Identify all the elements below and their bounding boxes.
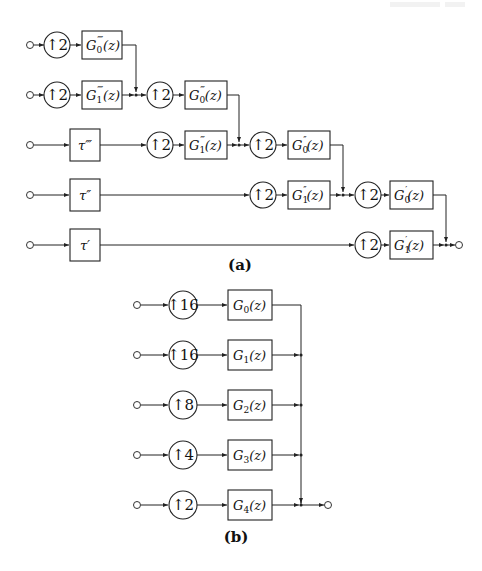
summing-junction <box>299 453 302 456</box>
summing-junction <box>299 403 302 406</box>
upsampler-label: ↑2 <box>46 86 68 104</box>
upsampler-label: ↑2 <box>149 136 171 154</box>
part-a-tree-structure: ↑2 G0⁗(z) ↑2 G1⁗(z) ↑2 G0‴(z) τ‴ ↑2 G1‴(… <box>27 31 463 274</box>
upsampler-label: ↑2 <box>357 236 379 254</box>
summing-junction <box>299 353 302 356</box>
filter-label: G1‴(z) <box>189 135 222 155</box>
part-b-equivalent-structure: ↑16 G0(z) ↑16 G1(z) ↑8 G2(z) ↑4 G3(z) <box>134 290 332 546</box>
caption-a: (a) <box>228 256 252 274</box>
input-port <box>27 192 34 199</box>
upsampler-label: ↑2 <box>252 136 274 154</box>
filter-label: G0⁗(z) <box>86 35 120 55</box>
filter-label: G1(z) <box>233 348 266 365</box>
input-port <box>134 302 141 309</box>
input-port <box>134 352 141 359</box>
input-port <box>27 92 34 99</box>
delay-label: τ′ <box>80 238 90 253</box>
filter-label: G4(z) <box>233 498 266 515</box>
upsampler-label: ↑2 <box>357 186 379 204</box>
upsampler-label: ↑2 <box>172 496 194 514</box>
filter-label: G0″(z) <box>292 135 324 155</box>
upsampler-label: ↑2 <box>46 36 68 54</box>
page-number-faded <box>445 2 465 7</box>
input-port <box>134 502 141 509</box>
page-header-faded <box>390 2 440 7</box>
filter-label: G1⁗(z) <box>86 85 120 105</box>
output-port <box>325 502 332 509</box>
filter-label: G0(z) <box>233 298 266 315</box>
filter-label: G1′(z) <box>394 235 424 255</box>
filter-label: G0′(z) <box>394 185 424 205</box>
upsampler-label: ↑2 <box>252 186 274 204</box>
filter-label: G3(z) <box>233 448 266 465</box>
caption-b: (b) <box>224 528 249 546</box>
filter-label: G2(z) <box>233 398 266 415</box>
delay-label: τ″ <box>79 188 91 203</box>
upsampler-label: ↑4 <box>172 446 194 464</box>
filter-label: G1″(z) <box>292 185 324 205</box>
input-port <box>27 242 34 249</box>
input-port <box>27 142 34 149</box>
input-port <box>134 452 141 459</box>
upsampler-label: ↑16 <box>167 296 199 314</box>
filter-bank-figure: ↑2 G0⁗(z) ↑2 G1⁗(z) ↑2 G0‴(z) τ‴ ↑2 G1‴(… <box>0 0 482 571</box>
input-port <box>27 42 34 49</box>
output-port <box>456 242 463 249</box>
delay-label: τ‴ <box>78 138 92 153</box>
upsampler-label: ↑2 <box>149 86 171 104</box>
upsampler-label: ↑8 <box>172 396 194 414</box>
input-port <box>134 402 141 409</box>
upsampler-label: ↑16 <box>167 346 199 364</box>
filter-label: G0‴(z) <box>189 85 222 105</box>
